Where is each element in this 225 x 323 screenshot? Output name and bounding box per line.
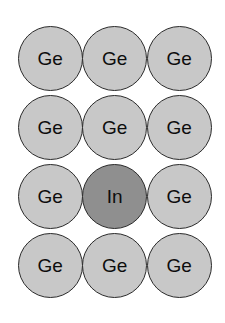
- lattice-diagram: GeGeGeGeGeGeGeInGeGeGeGe: [0, 0, 225, 323]
- atom-host-ge-r3c1: Ge: [18, 164, 83, 229]
- atom-host-ge-r2c1: Ge: [18, 95, 83, 160]
- atom-label: Ge: [38, 118, 63, 137]
- atom-label: Ge: [167, 49, 192, 68]
- atom-label: Ge: [102, 256, 127, 275]
- atom-host-ge-r2c3: Ge: [147, 95, 212, 160]
- atom-host-ge-r2c2: Ge: [82, 95, 147, 160]
- atom-dopant-in-r3c2: In: [82, 164, 147, 229]
- atom-host-ge-r4c1: Ge: [18, 233, 83, 298]
- atom-label: Ge: [167, 187, 192, 206]
- atom-label: Ge: [167, 118, 192, 137]
- atom-host-ge-r4c3: Ge: [147, 233, 212, 298]
- atom-label: Ge: [38, 49, 63, 68]
- atom-host-ge-r1c1: Ge: [18, 26, 83, 91]
- atom-label: Ge: [167, 256, 192, 275]
- atom-label: In: [107, 187, 123, 206]
- atom-host-ge-r4c2: Ge: [82, 233, 147, 298]
- atom-host-ge-r1c3: Ge: [147, 26, 212, 91]
- atom-label: Ge: [38, 187, 63, 206]
- atom-label: Ge: [38, 256, 63, 275]
- atom-label: Ge: [102, 118, 127, 137]
- atom-host-ge-r3c3: Ge: [147, 164, 212, 229]
- atom-label: Ge: [102, 49, 127, 68]
- atom-host-ge-r1c2: Ge: [82, 26, 147, 91]
